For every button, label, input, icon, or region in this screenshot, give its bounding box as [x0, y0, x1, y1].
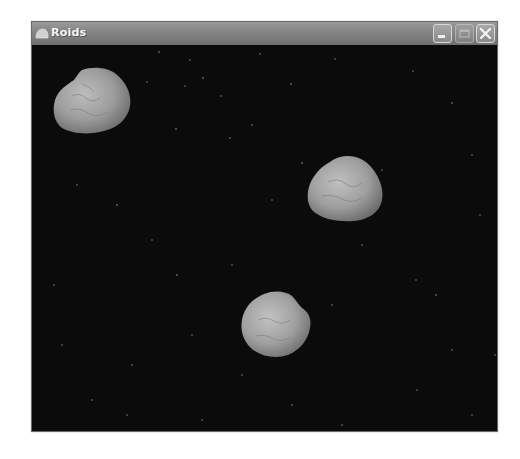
title-bar[interactable]: Roids: [32, 22, 497, 45]
asteroid-app-icon: [35, 26, 49, 40]
maximize-button[interactable]: [455, 24, 474, 43]
close-button[interactable]: [476, 24, 495, 43]
close-icon: [477, 25, 494, 42]
game-canvas[interactable]: [32, 45, 497, 431]
maximize-icon: [456, 25, 473, 42]
asteroid-1: [52, 66, 134, 136]
game-window: Roids: [31, 21, 498, 432]
asteroid-2: [306, 154, 386, 223]
asteroid-3: [240, 290, 313, 360]
minimize-icon: [434, 25, 451, 42]
window-title: Roids: [51, 26, 86, 39]
minimize-button[interactable]: [433, 24, 452, 43]
